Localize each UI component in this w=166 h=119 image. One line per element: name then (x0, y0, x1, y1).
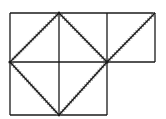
hatched-diagonals (10, 13, 155, 115)
grid-diagram (0, 0, 166, 119)
grid-lines (10, 13, 155, 115)
